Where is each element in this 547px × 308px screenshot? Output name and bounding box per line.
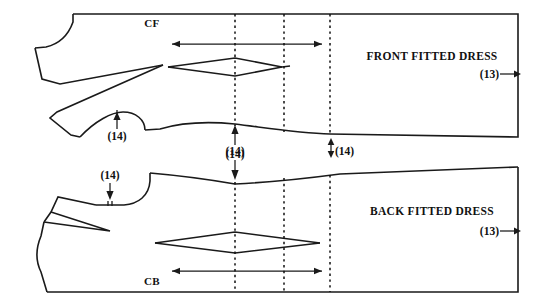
back-piece-right-and-hem [47,167,518,292]
front-dress-piece: FRONT FITTED DRESS CF (13) (14) [35,14,521,161]
back-shoulder-notch-label: (14) [225,145,244,158]
back-shoulder-dart [44,212,110,231]
front-hem-drop-head-up [328,138,335,145]
front-neckline-curve [35,14,73,48]
front-piece-label: FRONT FITTED DRESS [366,50,497,62]
pattern-diagram: FRONT FITTED DRESS CF (13) (14) [0,0,547,308]
front-waist-dart [168,58,290,76]
back-piece-label: BACK FITTED DRESS [370,205,494,217]
back-reference-label: (13) [480,225,499,238]
front-hem-callout-head [231,125,238,134]
front-dart-lower [168,67,282,76]
front-measure-head-left [172,41,180,47]
front-dart-tail [282,66,290,67]
front-hem-drop-head-down [328,151,335,158]
front-hem-drop-label: (14) [335,145,354,158]
grade-reference-lines [235,14,330,292]
back-shoulder-notch-callout: (14) [225,145,244,180]
back-fold-label: CB [144,275,160,287]
front-fold-label: CF [144,17,159,29]
back-neck-notch-label: (14) [100,169,119,182]
pattern-drawing-canvas: FRONT FITTED DRESS CF (13) (14) [0,0,547,308]
back-shoulder-callout-head [231,170,238,180]
back-dart-lower [155,243,320,253]
back-measure-head-right [314,268,322,274]
front-dart-upper [168,58,282,67]
back-dart-upper [155,232,320,243]
front-reference-callout: (13) [480,68,521,81]
back-width-measure-arrow [172,268,322,274]
back-neck-callout-head [106,191,113,200]
front-shoulder-edge [35,48,163,84]
back-side-seam [37,222,47,292]
front-hem-drop-callout: (14) [328,138,355,158]
front-width-measure-arrow [172,41,322,47]
back-neck-notch-callout: (14) [100,169,119,206]
back-waist-dart [155,232,320,253]
front-measure-head-right [314,41,322,47]
back-top-edge [150,167,518,184]
back-dress-piece: BACK FITTED DRESS CB (13) (14) [37,145,521,292]
front-armhole-notch-label: (14) [107,130,126,143]
front-reference-label: (13) [480,68,499,81]
back-reference-callout: (13) [480,225,521,238]
back-measure-head-left [172,268,180,274]
